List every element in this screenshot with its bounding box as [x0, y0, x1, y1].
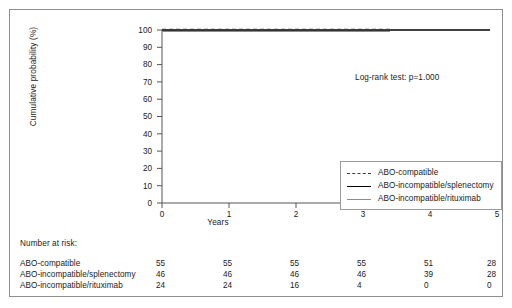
chart-legend: ABO-compatible ABO-incompatible/splenect… [340, 161, 502, 210]
legend-item-abo-incompatible-rituximab: ABO-incompatible/rituximab [346, 192, 494, 205]
risk-row-label-abo-incompatible-splenectomy: ABO-incompatible/splenectomy [20, 270, 136, 279]
legend-label-abo-incompatible-rituximab: ABO-incompatible/rituximab [378, 194, 481, 203]
risk-table-title: Number at risk: [20, 239, 77, 248]
legend-label-abo-incompatible-splenectomy: ABO-incompatible/splenectomy [378, 181, 494, 190]
risk-value: 0 [424, 281, 429, 290]
log-rank-annotation: Log-rank test: p=1.000 [355, 73, 439, 82]
y-tick-label-90: 90 [130, 43, 152, 52]
y-tick-label-50: 50 [130, 112, 152, 121]
risk-value: 51 [424, 259, 433, 268]
y-tick-label-70: 70 [130, 78, 152, 87]
risk-value: 46 [357, 270, 366, 279]
risk-value: 24 [223, 281, 232, 290]
y-tick-label-100: 100 [130, 26, 152, 35]
risk-value: 24 [156, 281, 165, 290]
legend-label-abo-compatible: ABO-compatible [378, 168, 438, 177]
y-tick-label-40: 40 [130, 130, 152, 139]
risk-value: 46 [290, 270, 299, 279]
x-tick-label-2: 2 [286, 210, 306, 219]
risk-value: 0 [487, 281, 492, 290]
legend-item-abo-compatible: ABO-compatible [346, 166, 494, 179]
figure-frame: 100 90 80 70 60 50 40 30 20 10 0 0 1 2 3… [9, 9, 503, 297]
x-axis-title: Years [158, 218, 278, 227]
risk-value: 16 [290, 281, 299, 290]
y-tick-label-30: 30 [130, 147, 152, 156]
risk-row-label-abo-compatible: ABO-compatible [20, 259, 80, 268]
y-tick-label-60: 60 [130, 95, 152, 104]
y-axis-ticks [157, 30, 162, 203]
number-at-risk-table: Number at risk: ABO-compatible ABO-incom… [10, 235, 504, 297]
risk-value: 55 [290, 259, 299, 268]
solid-gray-line-swatch-icon [346, 194, 372, 204]
solid-black-line-swatch-icon [346, 181, 372, 191]
y-axis-title: Cumulative probability (%) [29, 17, 38, 137]
risk-value: 55 [223, 259, 232, 268]
risk-value: 55 [357, 259, 366, 268]
risk-row-label-abo-incompatible-rituximab: ABO-incompatible/rituximab [20, 281, 123, 290]
risk-value: 28 [487, 259, 496, 268]
risk-value: 4 [357, 281, 362, 290]
y-tick-label-80: 80 [130, 60, 152, 69]
risk-value: 28 [487, 270, 496, 279]
dashed-line-swatch-icon [346, 168, 372, 178]
risk-value: 46 [156, 270, 165, 279]
x-tick-label-4: 4 [420, 210, 440, 219]
y-tick-label-20: 20 [130, 164, 152, 173]
y-tick-label-0: 0 [130, 199, 152, 208]
y-tick-label-10: 10 [130, 182, 152, 191]
risk-value: 55 [156, 259, 165, 268]
risk-value: 39 [424, 270, 433, 279]
plot-region: 100 90 80 70 60 50 40 30 20 10 0 0 1 2 3… [10, 10, 504, 235]
risk-value: 46 [223, 270, 232, 279]
x-tick-label-5: 5 [487, 210, 507, 219]
x-tick-label-3: 3 [353, 210, 373, 219]
legend-item-abo-incompatible-splenectomy: ABO-incompatible/splenectomy [346, 179, 494, 192]
